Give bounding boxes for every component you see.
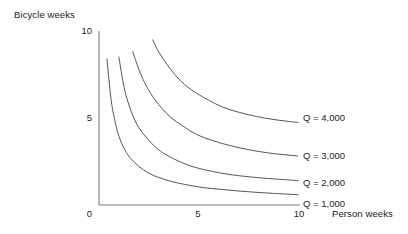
isoquant-curve: [153, 40, 298, 123]
isoquant-curve: [107, 59, 298, 195]
isoquant-curves: [107, 40, 298, 195]
curve-label-q1000: Q = 1,000: [303, 198, 345, 209]
curve-label-q3000: Q = 3,000: [303, 150, 345, 161]
plot-area: [0, 0, 408, 234]
curve-label-q2000: Q = 2,000: [303, 177, 345, 188]
isoquant-chart: Bicycle weeks Person weeks 10 5 0 5 10 Q…: [0, 0, 408, 234]
curve-label-q4000: Q = 4,000: [303, 112, 345, 123]
